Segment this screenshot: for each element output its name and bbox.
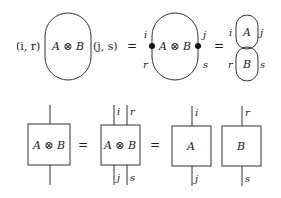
right-node-dot — [195, 43, 201, 49]
box-a-index-i: i — [195, 107, 198, 118]
rhs-index-r: r — [228, 59, 234, 70]
box2-index-s: s — [130, 172, 135, 183]
capsule-b-label: B — [242, 58, 251, 71]
box2-label: A ⊗ B — [103, 139, 136, 152]
box2-index-j: j — [115, 172, 120, 183]
lhs-left-index: (i, r) — [16, 40, 40, 53]
rhs-index-j: j — [258, 27, 263, 38]
middle-index-i: i — [144, 29, 147, 40]
capsule-a-label: A — [242, 26, 251, 39]
left-node-dot — [149, 43, 155, 49]
box-a-label: A — [186, 140, 195, 153]
box-b-index-r: r — [245, 107, 251, 118]
middle-index-r: r — [143, 59, 149, 70]
box-b-label: B — [236, 140, 245, 153]
tensor-diagram: (i, r) A ⊗ B (j, s) = A ⊗ B i r j s = A … — [0, 0, 281, 198]
rhs-index-s: s — [260, 59, 265, 70]
middle-index-s: s — [203, 59, 208, 70]
equals-sign: = — [78, 138, 88, 152]
equals-sign: = — [214, 39, 224, 53]
lhs-label: A ⊗ B — [51, 40, 84, 53]
box2-index-r: r — [130, 106, 136, 117]
middle-label: A ⊗ B — [158, 40, 191, 53]
rhs-index-i: i — [229, 27, 232, 38]
equals-sign: = — [127, 39, 137, 53]
box2-index-i: i — [117, 106, 120, 117]
middle-index-j: j — [201, 29, 206, 40]
box1-label: A ⊗ B — [32, 139, 65, 152]
lhs-right-index: (j, s) — [93, 40, 118, 53]
equals-sign: = — [150, 138, 160, 152]
box-b-index-s: s — [245, 173, 250, 184]
box-a-index-j: j — [193, 173, 198, 184]
